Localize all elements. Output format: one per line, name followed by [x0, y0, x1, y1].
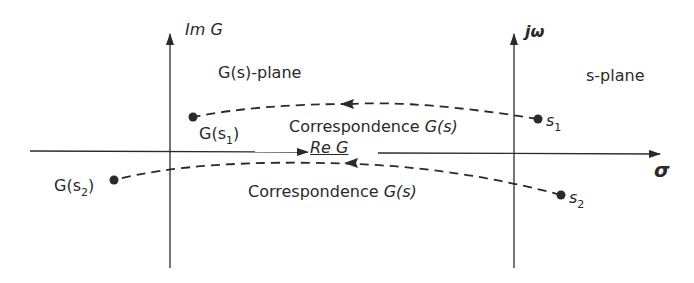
- s2-label-sub: 2: [577, 198, 584, 211]
- s-plane-title: s-plane: [586, 68, 645, 84]
- s1-label: s1: [546, 113, 561, 129]
- im-g-axis-label: Im G: [185, 22, 223, 38]
- mapping-curve-s2-tail: [114, 163, 355, 180]
- g-s1-label-sub: 1: [226, 134, 233, 147]
- mapping-arrow-s2-icon: [344, 158, 358, 168]
- correspondence-fn-upper: G(s): [425, 117, 458, 136]
- correspondence-label-lower: Correspondence G(s): [248, 184, 417, 200]
- sigma-axis-label: σ: [654, 160, 670, 180]
- jw-axis-label: jω: [525, 24, 544, 40]
- g-plane-title: G(s)-plane: [218, 65, 301, 81]
- g-s2-label: G(s2): [54, 178, 94, 194]
- conformal-mapping-diagram: Im G G(s)-plane Re G G(s1) G(s2) Corresp…: [0, 0, 694, 283]
- point-g-s1: [189, 113, 198, 122]
- correspondence-label-upper: Correspondence G(s): [289, 119, 458, 135]
- g-s1-label-main: G(s: [199, 124, 226, 143]
- point-s2: [557, 191, 566, 200]
- sigma-axis: [378, 153, 660, 154]
- s1-label-sub: 1: [554, 121, 561, 134]
- correspondence-text-upper: Correspondence: [289, 117, 425, 136]
- g-s1-label-close: ): [233, 124, 239, 143]
- g-s2-label-main: G(s: [54, 176, 81, 195]
- point-s1: [534, 115, 543, 124]
- g-s2-label-close: ): [88, 176, 94, 195]
- g-s2-label-sub: 2: [81, 186, 88, 199]
- mapping-arrow-s1-icon: [340, 99, 354, 109]
- re-g-axis-label: Re G: [310, 140, 348, 156]
- correspondence-fn-lower: G(s): [384, 182, 417, 201]
- point-g-s2: [110, 176, 119, 185]
- re-g-axis: [30, 151, 308, 152]
- s2-label: s2: [569, 190, 584, 206]
- g-s1-label: G(s1): [199, 126, 239, 142]
- correspondence-text-lower: Correspondence: [248, 182, 384, 201]
- mapping-curve-s1-tail: [193, 104, 350, 117]
